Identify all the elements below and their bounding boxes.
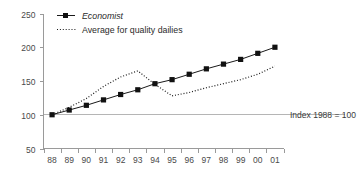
data-point-marker: [118, 92, 123, 97]
legend-label-average: Average for quality dailies: [82, 25, 183, 35]
line-chart: 50100150200250 8889909192939495969798990…: [0, 0, 364, 175]
x-tick-label: 97: [202, 155, 212, 165]
x-tick-label: 01: [270, 155, 280, 165]
chart-container: 50100150200250 8889909192939495969798990…: [0, 0, 364, 175]
x-tick-label: 95: [167, 155, 177, 165]
data-point-marker: [187, 72, 192, 77]
legend-marker-economist: [63, 13, 68, 18]
x-tick-label: 89: [64, 155, 74, 165]
data-point-marker: [84, 103, 89, 108]
index-note-label: Index 1988 = 100: [290, 110, 356, 120]
x-tick-label: 90: [82, 155, 92, 165]
data-point-marker: [169, 77, 174, 82]
legend-label-economist: Economist: [82, 11, 124, 21]
data-point-marker: [238, 57, 243, 62]
data-point-marker: [67, 107, 72, 112]
y-tick-label: 200: [21, 43, 35, 53]
y-tick-label: 100: [21, 111, 35, 121]
data-point-marker: [221, 62, 226, 67]
x-tick-label: 91: [99, 155, 109, 165]
y-tick-label: 150: [21, 77, 35, 87]
y-tick-label: 50: [26, 145, 36, 155]
data-point-marker: [152, 81, 157, 86]
data-point-marker: [49, 112, 54, 117]
x-tick-label: 00: [253, 155, 263, 165]
x-tick-label: 98: [219, 155, 229, 165]
data-point-marker: [272, 45, 277, 50]
x-tick-label: 88: [47, 155, 57, 165]
data-point-marker: [255, 51, 260, 56]
x-tick-label: 99: [236, 155, 246, 165]
index-note: Index 1988 = 100: [290, 110, 356, 120]
x-tick-label: 96: [184, 155, 194, 165]
x-tick-label: 93: [133, 155, 143, 165]
y-tick-label: 250: [21, 10, 35, 20]
data-point-marker: [135, 87, 140, 92]
data-point-marker: [204, 66, 209, 71]
data-point-marker: [101, 97, 106, 102]
x-tick-label: 92: [116, 155, 126, 165]
x-tick-label: 94: [150, 155, 160, 165]
